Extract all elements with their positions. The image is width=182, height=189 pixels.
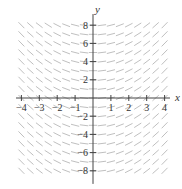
slope-segment xyxy=(143,23,150,28)
slope-segment xyxy=(116,169,124,172)
slope-segment xyxy=(116,160,124,163)
slope-segment xyxy=(98,43,106,44)
slope-segment xyxy=(98,107,106,108)
slope-segment xyxy=(62,151,70,154)
slope-segment xyxy=(36,168,43,173)
slope-segment xyxy=(27,50,33,56)
slope-segment xyxy=(71,42,79,44)
slope-segment xyxy=(98,143,106,144)
slope-segment xyxy=(116,115,124,118)
slope-segment xyxy=(45,59,52,64)
slope-segment xyxy=(116,42,124,45)
slope-segment xyxy=(116,24,124,27)
slope-segment xyxy=(71,142,79,144)
slope-segment xyxy=(134,23,141,28)
slope-segment xyxy=(45,159,52,164)
slope-segment xyxy=(143,114,150,119)
slope-segment xyxy=(107,142,115,144)
slope-segment xyxy=(45,87,52,92)
slope-segment xyxy=(107,115,115,117)
slope-segment xyxy=(162,59,168,65)
slope-segment xyxy=(62,160,70,163)
slope-segment xyxy=(153,50,159,56)
slope-field-plot: −4−3−2−11234 −8−6−4−22468 x y xyxy=(0,0,182,189)
slope-segment xyxy=(36,77,43,82)
y-axis-label: y xyxy=(94,3,100,15)
slope-segment xyxy=(134,114,141,119)
slope-segment xyxy=(18,86,24,92)
slope-segment xyxy=(45,105,52,110)
slope-segment xyxy=(98,134,106,135)
slope-segment xyxy=(143,59,150,64)
slope-segment xyxy=(143,141,150,146)
slope-segment xyxy=(18,77,24,83)
slope-segment xyxy=(71,51,79,53)
slope-segment xyxy=(98,79,106,80)
slope-segment xyxy=(162,68,168,74)
slope-segment xyxy=(143,68,150,73)
slope-segment xyxy=(134,123,141,128)
slope-segment xyxy=(80,52,88,53)
slope-segment xyxy=(71,33,79,35)
slope-segment xyxy=(36,159,43,164)
slope-segment xyxy=(27,86,33,92)
slope-segment xyxy=(62,87,70,90)
slope-segment xyxy=(18,68,24,74)
slope-segment xyxy=(107,51,115,53)
slope-segment xyxy=(27,123,33,129)
slope-segment xyxy=(143,123,150,128)
slope-segment xyxy=(153,123,159,129)
slope-segment xyxy=(134,41,141,46)
y-tick-label: −6 xyxy=(77,147,88,158)
slope-segment xyxy=(143,41,150,46)
slope-segment xyxy=(125,78,132,82)
slope-segment xyxy=(80,143,88,144)
slope-segment xyxy=(125,169,132,173)
slope-segment xyxy=(53,114,60,118)
slope-segment xyxy=(116,124,124,127)
slope-segment xyxy=(134,150,141,155)
slope-segment xyxy=(53,123,60,127)
slope-segment xyxy=(125,123,132,127)
slope-segment xyxy=(45,132,52,137)
slope-segment xyxy=(134,59,141,64)
slope-segment xyxy=(162,113,168,119)
slope-segment xyxy=(53,41,60,45)
slope-segment xyxy=(71,88,79,90)
x-tick-label: 4 xyxy=(162,102,167,113)
y-tick-label: 4 xyxy=(83,56,88,67)
slope-segment xyxy=(153,77,159,83)
slope-segment xyxy=(27,132,33,138)
slope-segment xyxy=(27,141,33,147)
y-tick-label: 2 xyxy=(83,74,88,85)
slope-segment xyxy=(53,142,60,146)
x-tick-label: 2 xyxy=(126,102,131,113)
slope-segment xyxy=(134,159,141,164)
slope-segment xyxy=(45,68,52,73)
slope-segment xyxy=(62,142,70,145)
slope-segment xyxy=(125,142,132,146)
slope-segment xyxy=(162,159,168,165)
slope-segment xyxy=(153,86,159,92)
slope-segment xyxy=(98,70,106,71)
slope-segment xyxy=(153,168,159,174)
slope-segment xyxy=(45,141,52,146)
slope-segment xyxy=(62,169,70,172)
slope-segment xyxy=(53,32,60,36)
slope-segment xyxy=(45,150,52,155)
slope-segment xyxy=(18,31,24,37)
slope-segment xyxy=(153,22,159,28)
slope-segment xyxy=(116,51,124,54)
slope-segment xyxy=(134,105,141,110)
y-tick-label: 6 xyxy=(83,38,88,49)
slope-segment xyxy=(107,61,115,63)
slope-segment xyxy=(107,161,115,163)
slope-segment xyxy=(107,79,115,81)
slope-segment xyxy=(71,161,79,163)
slope-segment xyxy=(125,87,132,91)
slope-segment xyxy=(36,150,43,155)
slope-segment xyxy=(98,52,106,53)
slope-segment xyxy=(27,22,33,28)
slope-segment xyxy=(116,106,124,109)
slope-segment xyxy=(162,141,168,147)
